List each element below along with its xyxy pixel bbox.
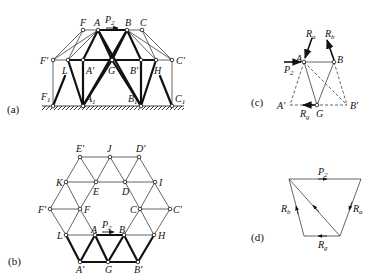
node-label-G-b: G (105, 264, 112, 275)
ground-hatch (42, 106, 184, 110)
node-label-L-b: L (56, 230, 63, 241)
panel-tag-d: (d) (251, 231, 264, 244)
panel-c: Ra Rb A B P2 A' B' Rg G (c) (251, 28, 359, 121)
node-label-Bp-c: B' (350, 100, 359, 111)
node-label-Ap-c: A' (276, 100, 286, 111)
node-label-E: E (92, 186, 99, 197)
force-label-rb: Rb (324, 28, 335, 41)
node-label-H: H (153, 65, 162, 76)
force-label-ra-d: Ra (352, 203, 363, 216)
node-label-Ap-b: A' (75, 264, 85, 275)
node-label-A-b: A (90, 224, 98, 235)
node-label-F: F (79, 17, 87, 28)
force-arrow-rb (327, 40, 334, 60)
panel-tag-b: (b) (8, 255, 21, 268)
node-label-A-c: A (295, 53, 303, 64)
force-label-p2-d: P2 (317, 166, 328, 179)
node-label-J: J (107, 143, 112, 154)
load-label-p2-b: P2 (101, 219, 112, 232)
node-label-K: K (55, 177, 64, 188)
nodes-b (48, 155, 172, 264)
node-label-Ap: A' (85, 65, 95, 76)
node-label-C1: C1 (175, 93, 185, 106)
node-label-Cp: C' (176, 55, 186, 66)
node-label-F-b: F (83, 204, 91, 215)
force-label-ra: Ra (305, 28, 316, 41)
node-label-F1: F1 (40, 91, 51, 104)
panel-tag-a: (a) (7, 103, 20, 116)
force-label-p2-c: P2 (283, 64, 294, 77)
node-label-C-b: C (130, 204, 137, 215)
node-label-C: C (140, 17, 147, 28)
node-label-A: A (93, 17, 101, 28)
load-label-p2: P2 (104, 14, 115, 27)
node-label-Fp-b: F' (37, 204, 47, 215)
panel-d: P2 Ra Rb Rg (d) (251, 166, 363, 252)
panel-tag-c: (c) (251, 96, 264, 109)
node-label-B: B (125, 17, 131, 28)
node-label-I: I (158, 177, 163, 188)
node-label-D: D (121, 186, 130, 197)
node-label-Ep: E' (75, 143, 85, 154)
node-label-B-b: B (119, 224, 125, 235)
node-label-Dp: D' (135, 143, 146, 154)
node-label-G: G (108, 65, 115, 76)
node-label-Bp-b: B' (134, 264, 143, 275)
node-label-Bp: B' (130, 65, 139, 76)
force-arrow-ra (305, 38, 312, 58)
node-label-H-b: H (157, 230, 166, 241)
truss-figure: F A P2 B C F' L A' G B' H C' F1 A1 B1 C1… (0, 0, 370, 275)
panel-a: F A P2 B C F' L A' G B' H C' F1 A1 B1 C1… (7, 14, 186, 116)
thick-members-b (66, 235, 154, 262)
node-label-A1: A1 (85, 93, 96, 106)
panel-b: E' J D' K E D I F' F C C' L A P2 B H A' … (8, 143, 183, 275)
force-label-rg-d: Rg (317, 239, 328, 252)
node-label-B-c: B (337, 54, 343, 65)
node-label-Fp: F' (39, 55, 49, 66)
node-label-G-c: G (316, 108, 323, 119)
force-label-rg: Rg (299, 108, 310, 121)
node-label-Cp-b: C' (173, 204, 183, 215)
node-label-B1: B1 (128, 93, 138, 106)
force-label-rb-d: Rb (280, 203, 291, 216)
node-label-L: L (61, 65, 68, 76)
